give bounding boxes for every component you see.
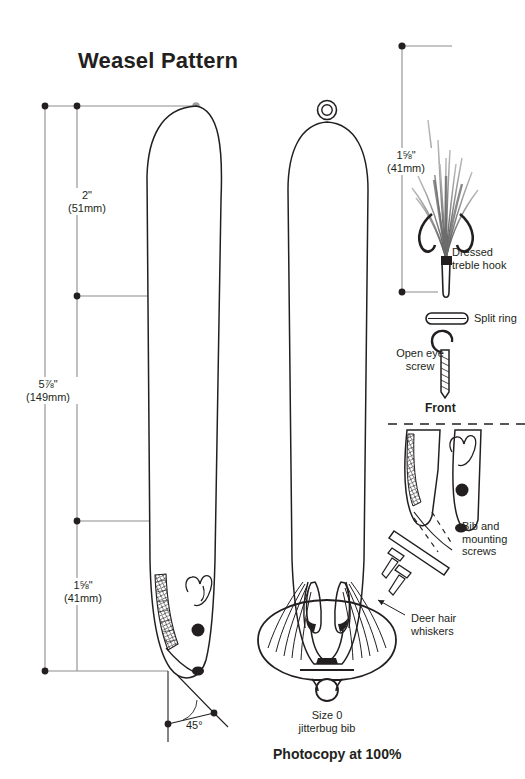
dimension-hook-dressing: 1⅝" (41mm) bbox=[375, 148, 437, 175]
side-chin-dot bbox=[192, 667, 204, 676]
callout-jitterbug-bib: Size 0 jitterbug bib bbox=[282, 709, 372, 734]
side-view-lure-body bbox=[147, 106, 222, 678]
page-title: Weasel Pattern bbox=[78, 48, 238, 74]
callout-split-ring: Split ring bbox=[474, 312, 517, 325]
callout-bib-and-screws: Bib and mounting screws bbox=[462, 520, 524, 558]
callout-open-eye-screw: Open eye screw bbox=[391, 347, 449, 372]
front-view-lure-body bbox=[288, 101, 368, 665]
hook-dim-bottom-dot bbox=[399, 289, 406, 296]
dimension-tail-segment: 1⅝" (41mm) bbox=[48, 578, 118, 605]
angle-vertex-dot bbox=[165, 721, 172, 728]
callout-deer-hair-whiskers: Deer hair whiskers bbox=[411, 612, 481, 637]
footer-photocopy-note: Photocopy at 100% bbox=[273, 748, 401, 761]
side-eye-dot bbox=[192, 624, 205, 637]
dimension-top-segment: 2" (51mm) bbox=[54, 188, 120, 215]
hook-dim-top-dot bbox=[398, 42, 405, 49]
pattern-sheet: Weasel Pattern 2" (51mm) 5⅞" (149mm) 1⅝"… bbox=[0, 0, 525, 779]
angle-label-45: 45° bbox=[186, 719, 203, 732]
callout-dressed-treble-hook: Dressed treble hook bbox=[452, 246, 522, 271]
bib-and-mounting-screws-detail bbox=[382, 430, 481, 595]
split-ring-shape bbox=[426, 313, 468, 324]
callout-front-view: Front bbox=[425, 402, 456, 415]
whisker-leader-line bbox=[378, 600, 405, 615]
dimension-overall-length: 5⅞" (149mm) bbox=[11, 377, 85, 404]
angle-point-dot bbox=[211, 710, 218, 717]
